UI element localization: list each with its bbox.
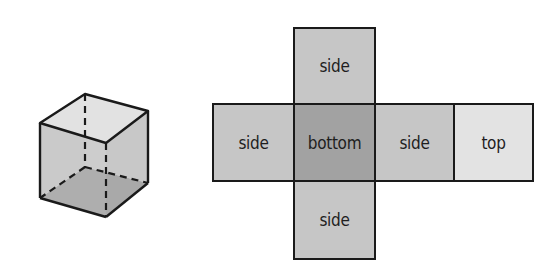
net-face-side-bottom: side: [293, 180, 376, 260]
net-face-side-top: side: [293, 27, 376, 105]
net-face-side-left: side: [212, 103, 295, 182]
net-face-top: top: [453, 103, 534, 182]
net-face-side-right: side: [374, 103, 455, 182]
cube-3d-illustration: [0, 0, 200, 274]
net-face-bottom: bottom: [293, 103, 376, 182]
